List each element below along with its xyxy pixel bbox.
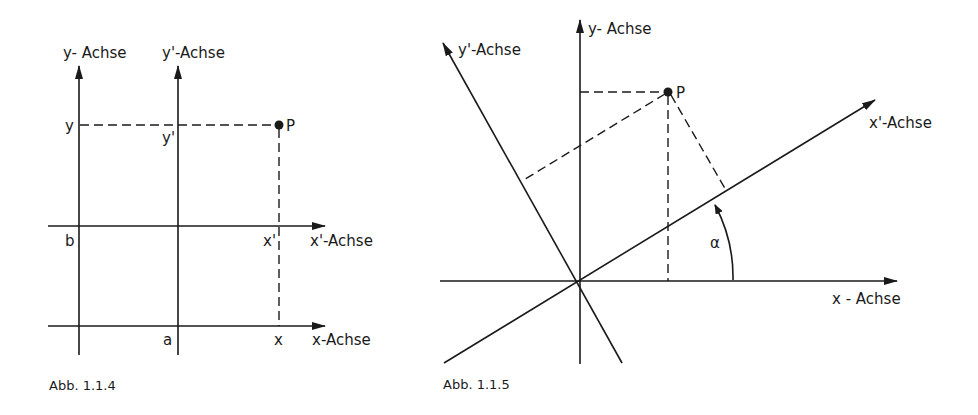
angle-alpha-label: α bbox=[710, 234, 720, 252]
figure-caption: Abb. 1.1.4 bbox=[49, 378, 116, 393]
y-prime-axis-label: y'-Achse bbox=[162, 44, 225, 62]
b-label: b bbox=[65, 232, 75, 250]
y-value-label: y bbox=[65, 117, 74, 135]
x-value-label: x bbox=[274, 331, 283, 349]
a-label: a bbox=[163, 331, 172, 349]
x-axis-label: x-Achse bbox=[312, 331, 371, 349]
point-p bbox=[275, 121, 284, 130]
y-prime-axis bbox=[443, 43, 622, 363]
projection-to-y-prime-axis bbox=[522, 94, 665, 181]
figure-translation: y- Achse y'-Achse y y' P b x' x'-Achse a… bbox=[48, 44, 373, 393]
y-axis-label: y- Achse bbox=[63, 44, 127, 62]
y-axis-label: y- Achse bbox=[588, 20, 652, 38]
x-prime-axis bbox=[444, 100, 875, 363]
figure-rotation: y- Achse y'-Achse P x'-Achse α x - Achse… bbox=[440, 20, 932, 392]
y-prime-axis-label: y'-Achse bbox=[458, 41, 521, 59]
point-p bbox=[664, 88, 673, 97]
x-prime-axis-label: x'-Achse bbox=[310, 232, 373, 250]
x-prime-value-label: x' bbox=[263, 232, 276, 250]
x-prime-axis-label: x'-Achse bbox=[869, 114, 932, 132]
point-p-label: P bbox=[286, 117, 295, 135]
figure-caption: Abb. 1.1.5 bbox=[443, 377, 510, 392]
y-prime-value-label: y' bbox=[162, 129, 175, 147]
point-p-label: P bbox=[676, 84, 685, 102]
projection-to-x-prime-axis bbox=[671, 95, 727, 192]
x-axis-label: x - Achse bbox=[832, 290, 901, 308]
